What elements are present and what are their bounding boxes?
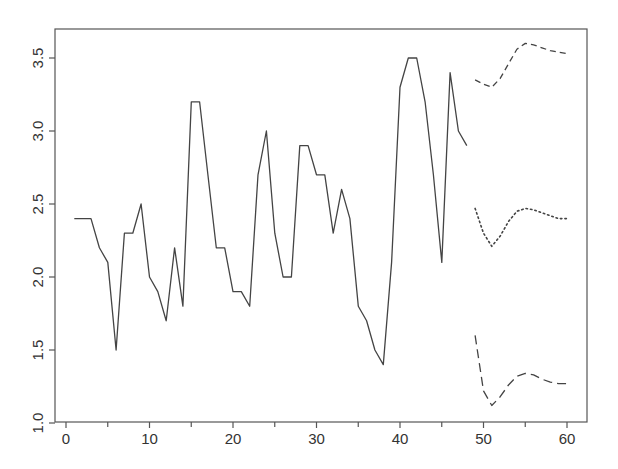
- x-tick-label: 30: [308, 430, 325, 447]
- x-tick-label: 60: [559, 430, 576, 447]
- series-forecast: [475, 208, 567, 246]
- x-tick-label: 50: [475, 430, 492, 447]
- y-axis: 1.01.52.02.53.03.5: [29, 48, 55, 434]
- series-layer: [74, 43, 567, 405]
- x-tick-label: 0: [62, 430, 70, 447]
- y-tick-label: 1.5: [29, 340, 46, 361]
- time-series-forecast-chart: 1.01.52.02.53.03.5 0102030405060: [0, 0, 618, 469]
- series-observed: [74, 58, 467, 365]
- series-forecast-lower-bound: [475, 335, 567, 405]
- series-forecast-upper-bound: [475, 43, 567, 87]
- y-tick-label: 3.0: [29, 121, 46, 142]
- x-tick-label: 40: [392, 430, 409, 447]
- y-tick-label: 3.5: [29, 48, 46, 69]
- x-tick-label: 20: [225, 430, 242, 447]
- y-tick-label: 2.0: [29, 267, 46, 288]
- y-tick-label: 1.0: [29, 413, 46, 434]
- y-tick-label: 2.5: [29, 194, 46, 215]
- x-axis: 0102030405060: [62, 422, 576, 447]
- x-tick-label: 10: [141, 430, 158, 447]
